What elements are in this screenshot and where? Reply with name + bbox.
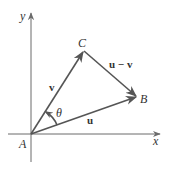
point-a-label: A (18, 137, 27, 151)
vector-u-label: u (87, 114, 93, 126)
x-axis-label: x (152, 134, 159, 148)
vector-v (31, 52, 83, 134)
vector-u (31, 97, 136, 134)
y-axis-label: y (19, 9, 26, 23)
vector-v-label: v (49, 81, 55, 93)
vector-u-minus-v-label: u − v (109, 58, 133, 70)
point-b-label: B (140, 92, 148, 106)
vector-triangle-diagram: y x A B C v u u − v θ (0, 0, 176, 169)
point-c-label: C (78, 36, 87, 50)
angle-theta-label: θ (56, 106, 62, 120)
